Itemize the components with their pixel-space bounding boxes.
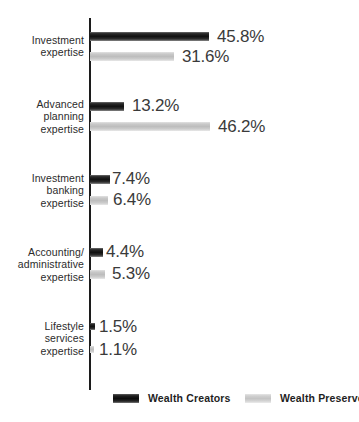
bar-wealth-preservers bbox=[90, 122, 210, 131]
bar-wealth-preservers bbox=[90, 52, 174, 61]
bar-value-label: 45.8% bbox=[217, 28, 264, 45]
bar-chart: Investment expertise 45.8% 31.6% Advance… bbox=[0, 0, 359, 422]
category-label: Investment expertise bbox=[0, 34, 84, 59]
bar-value-label: 6.4% bbox=[113, 191, 151, 208]
legend-item-wealth-preservers[interactable]: Wealth Preservers bbox=[245, 392, 359, 404]
bar-wealth-preservers bbox=[90, 346, 94, 353]
bar-wealth-creators bbox=[90, 102, 124, 111]
bar-value-label: 7.4% bbox=[112, 170, 150, 187]
bar-value-label: 31.6% bbox=[182, 48, 229, 65]
bar-wealth-creators bbox=[90, 248, 103, 257]
category-label: Accounting/ administrative expertise bbox=[0, 246, 84, 283]
legend-item-wealth-creators[interactable]: Wealth Creators bbox=[113, 392, 231, 404]
legend-label: Wealth Preservers bbox=[280, 392, 359, 404]
bar-value-label: 4.4% bbox=[106, 243, 144, 260]
bar-wealth-preservers bbox=[90, 196, 108, 205]
legend-swatch-dark-icon bbox=[113, 394, 139, 403]
bar-wealth-creators bbox=[90, 32, 209, 41]
bar-value-label: 13.2% bbox=[132, 97, 179, 114]
bar-value-label: 1.1% bbox=[99, 341, 137, 358]
bar-value-label: 5.3% bbox=[112, 265, 150, 282]
category-label: Investment banking expertise bbox=[0, 172, 84, 209]
bar-value-label: 46.2% bbox=[218, 118, 265, 135]
category-label: Lifestyle services expertise bbox=[0, 320, 84, 357]
chart-legend: Wealth Creators Wealth Preservers bbox=[0, 389, 359, 413]
bar-wealth-preservers bbox=[90, 270, 105, 279]
bar-wealth-creators bbox=[90, 323, 95, 330]
legend-swatch-light-icon bbox=[245, 394, 271, 403]
bar-wealth-creators bbox=[90, 175, 110, 184]
category-label: Advanced planning expertise bbox=[0, 98, 84, 135]
legend-label: Wealth Creators bbox=[148, 392, 231, 404]
bar-value-label: 1.5% bbox=[99, 318, 137, 335]
